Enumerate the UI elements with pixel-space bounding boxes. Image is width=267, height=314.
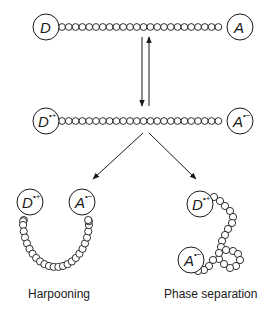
- harpooning-label: Harpooning: [28, 287, 90, 301]
- donor-charge: •+: [49, 111, 57, 120]
- donor-label: D: [192, 196, 203, 213]
- donor-charge: •+: [33, 192, 41, 201]
- acceptor-charge: •−: [85, 192, 93, 201]
- charge-separated-chain: D •+ A •−: [33, 108, 253, 134]
- phase-separation-structure: D •+ A •− Phase separation: [164, 191, 257, 301]
- donor-label: D: [38, 113, 49, 130]
- acceptor-label: A: [183, 252, 194, 269]
- bead-chain: [59, 118, 222, 125]
- donor-acceptor-diagram: D A D •+ A •− D •+ A •− Harpooning D •+ …: [0, 0, 267, 314]
- arrow-to-harpooning: [93, 133, 143, 179]
- donor-charge: •+: [203, 194, 211, 203]
- acceptor-label: A: [232, 113, 243, 130]
- bead-chain: [19, 216, 92, 270]
- donor-label: D: [22, 194, 33, 211]
- arrow-to-phase-separation: [149, 133, 196, 179]
- acceptor-label: A: [233, 19, 244, 36]
- acceptor-charge: •−: [194, 250, 202, 259]
- neutral-chain: D A: [33, 14, 253, 40]
- donor-label: D: [40, 19, 51, 36]
- bead-chain: [59, 24, 222, 31]
- phase-separation-label: Phase separation: [164, 287, 257, 301]
- acceptor-charge: •−: [243, 111, 251, 120]
- harpooning-structure: D •+ A •− Harpooning: [17, 189, 95, 301]
- acceptor-label: A: [74, 194, 85, 211]
